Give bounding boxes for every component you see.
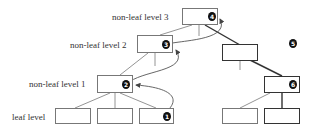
label-leaf-level: leaf level [12,112,45,122]
propagation-arrows [127,19,221,112]
leaf-node-2 [97,108,133,124]
step-badge-4: 4 [208,12,216,21]
node-level1: 2 [97,75,133,93]
label-non-leaf-level-3: non-leaf level 3 [112,12,168,22]
leaf-node-5-new [264,108,300,124]
node-level2-new [222,44,258,61]
leaf-node-1 [55,108,91,124]
node-level3-root: 4 [182,8,218,25]
node-level1-new: 6 [264,76,300,93]
step-badge-6: 6 [289,80,297,89]
leaf-node-4 [222,108,258,124]
step-badge-1: 1 [163,112,171,121]
leaf-node-3: 1 [139,108,174,124]
btree-diagram: non-leaf level 3 non-leaf level 2 non-le… [0,0,316,131]
new-edges [205,25,282,108]
label-non-leaf-level-1: non-leaf level 1 [29,79,85,89]
step-badge-5: 5 [289,39,297,48]
step-badge-2: 2 [122,80,130,89]
step-badge-3: 3 [162,40,170,49]
node-level2: 3 [137,35,173,53]
label-non-leaf-level-2: non-leaf level 2 [70,40,126,50]
